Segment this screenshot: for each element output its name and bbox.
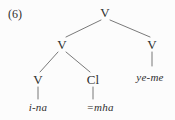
tree-node-v-mid: V — [57, 38, 67, 51]
tree-node-root: V — [100, 6, 110, 19]
tree-edge-root-to-v-right — [110, 20, 150, 37]
syntax-tree-figure: (6) VVVVCl i-na=mhaye-me — [0, 0, 175, 120]
tree-node-v-inner: V — [33, 73, 43, 86]
tree-node-v-right: V — [147, 38, 157, 51]
tree-edge-v-mid-to-cl — [66, 52, 90, 72]
tree-leaf-leaf-ina: i-na — [29, 102, 48, 113]
tree-leaf-leaf-mha: =mha — [86, 102, 113, 113]
tree-edge-v-mid-to-v-inner — [40, 52, 58, 72]
tree-node-cl: Cl — [87, 73, 100, 86]
tree-leaf-leaf-yeme: ye-me — [136, 72, 163, 83]
tree-edge-root-to-v-mid — [66, 20, 101, 37]
